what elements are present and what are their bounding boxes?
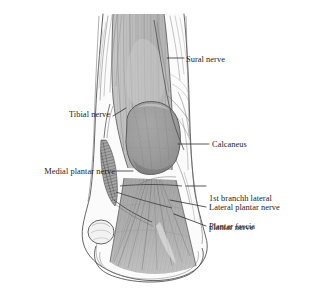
label-first-branch-lateral-plantar-nerve: 1st branchh lateral plantar nerve (209, 175, 272, 252)
label-calcaneus: Calcaneus (212, 140, 247, 150)
label-lateral-plantar-nerve: Lateral plantar nerve (209, 203, 280, 213)
anatomy-figure: Sural nerve Tibial nerve Calcaneus Media… (0, 0, 317, 293)
label-plantar-fascia: Plantar fascia (209, 222, 255, 232)
label-sural-nerve: Sural nerve (186, 55, 225, 65)
label-tibial-nerve: Tibial nerve (48, 110, 110, 120)
label-medial-plantar-nerve: Medial plantar nerve (10, 167, 115, 177)
